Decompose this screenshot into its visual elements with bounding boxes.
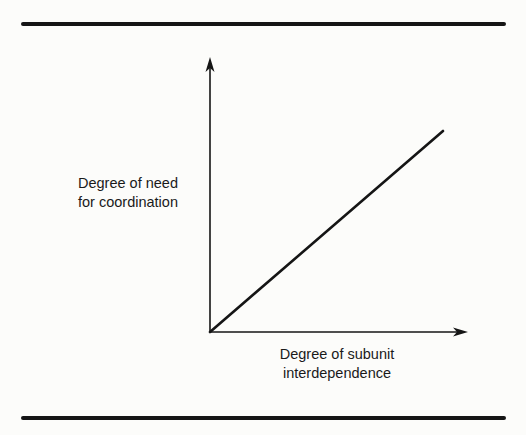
y-axis-label: Degree of need for coordination: [48, 174, 208, 212]
x-axis-label: Degree of subunit interdependence: [257, 345, 417, 383]
x-axis-label-line-2: interdependence: [257, 364, 417, 383]
y-axis-label-line-1: Degree of need: [48, 174, 208, 193]
bottom-rule: [21, 416, 506, 420]
y-axis-label-line-2: for coordination: [48, 193, 208, 212]
x-axis-label-line-1: Degree of subunit: [257, 345, 417, 364]
relationship-line: [210, 131, 443, 332]
x-axis: [210, 328, 468, 337]
